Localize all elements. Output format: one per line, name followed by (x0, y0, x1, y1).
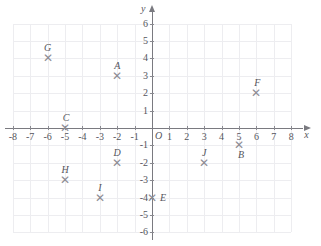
point-label-d: D (114, 148, 121, 158)
point-label-g: G (44, 43, 51, 53)
point-labels: ABCDEFGHIJ (0, 0, 321, 246)
point-label-e: E (160, 193, 166, 203)
point-label-h: H (61, 165, 68, 175)
coordinate-plane-chart: xyO-8-7-6-5-4-3-2-112345678654321-1-2-3-… (0, 0, 321, 246)
point-label-j: J (202, 148, 206, 158)
point-label-c: C (63, 113, 70, 123)
point-label-f: F (254, 78, 260, 88)
point-label-b: B (238, 150, 244, 160)
point-label-i: I (98, 183, 101, 193)
point-label-a: A (114, 61, 120, 71)
